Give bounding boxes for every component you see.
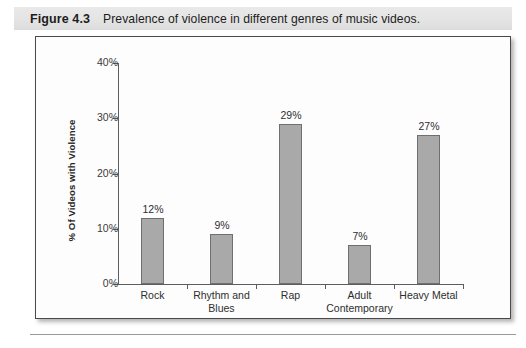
- page-rule: [30, 334, 516, 335]
- figure-number: Figure 4.3: [14, 12, 90, 26]
- figure-frame: [35, 36, 511, 319]
- figure-caption-band: Figure 4.3 Prevalence of violence in dif…: [14, 7, 512, 30]
- figure-caption-text: Prevalence of violence in different genr…: [90, 12, 420, 26]
